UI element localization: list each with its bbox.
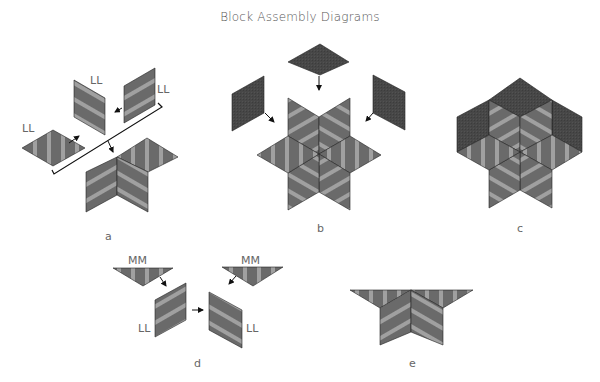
arrow-icon [115,108,122,112]
solid-diamond-top [288,44,349,75]
arrow-icon [366,113,373,121]
piece-label-mm: MM [241,254,260,267]
diagram-label-c: c [517,222,523,235]
piece-label-ll: LL [246,322,258,335]
piece-label-ll: LL [22,122,34,135]
diagram-label-d: d [194,357,201,370]
parallelogram-piece-left [155,283,186,337]
arrow-icon [265,113,274,122]
piece-label-ll: LL [90,74,102,87]
diagram-label-b: b [317,222,324,235]
diagram-b [232,44,405,210]
arrow-icon [229,276,236,284]
piece-label-mm: MM [128,254,147,267]
solid-parallelogram-right [373,75,405,130]
diagram-a [22,68,178,212]
assembled-parallelogram-left [86,157,117,212]
parallelogram-piece-right [209,292,242,348]
arrow-icon [108,141,113,152]
diagram-label-e: e [409,357,416,370]
parallelogram-piece-left [74,80,105,135]
piece-label-ll: LL [157,83,169,96]
solid-parallelogram-left [232,76,264,131]
triangle-piece-right [222,267,283,286]
diagram-e [350,290,473,345]
diagram-label-a: a [105,230,112,243]
diagram-d [113,267,283,348]
arrow-icon [160,277,166,286]
diagram-c [457,78,582,208]
piece-label-ll: LL [138,322,150,335]
assembly-diagram-canvas [0,0,600,382]
